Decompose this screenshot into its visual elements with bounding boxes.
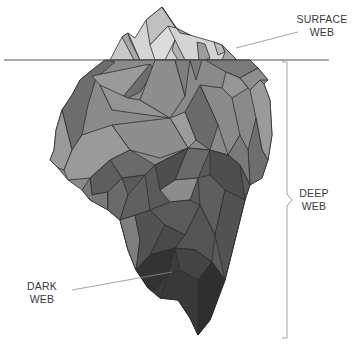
deep-web-label: DEEP WEB [292, 187, 336, 213]
dark-web-label: DARK WEB [20, 280, 64, 306]
dark-web-label-line2: WEB [20, 293, 64, 306]
iceberg-tip [110, 7, 236, 60]
deep-web-label-line2: WEB [292, 200, 336, 213]
dark-web-label-line1: DARK [20, 280, 64, 293]
surface-web-label-line2: WEB [290, 26, 354, 39]
surface-leader-line [236, 32, 298, 48]
iceberg-diagram: SURFACE WEB DEEP WEB DARK WEB [0, 0, 357, 345]
surface-web-label: SURFACE WEB [290, 13, 354, 39]
deep-web-bracket [282, 62, 292, 338]
surface-web-label-line1: SURFACE [290, 13, 354, 26]
deep-web-label-line1: DEEP [292, 187, 336, 200]
